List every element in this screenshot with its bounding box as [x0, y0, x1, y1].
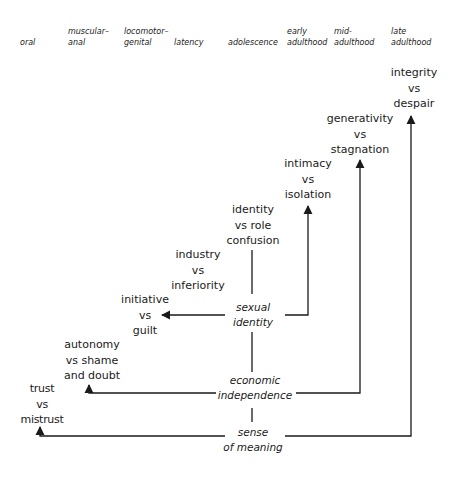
- arrow-to-intimacy: [285, 206, 308, 315]
- crisis-autonomy-vs-shame-and-doubt: autonomy vs shame and doubt: [64, 337, 120, 384]
- hub-economic-independence: economic independence: [218, 373, 293, 402]
- crisis-intimacy-vs-isolation: intimacy vs isolation: [284, 156, 331, 203]
- hub-line: economic: [218, 373, 293, 388]
- crisis-integrity-vs-despair: integrity vs despair: [391, 65, 438, 112]
- crisis-line: mistrust: [21, 412, 64, 428]
- hub-line: sense: [223, 425, 282, 440]
- crisis-line: vs: [391, 81, 438, 97]
- crisis-line: and doubt: [64, 368, 120, 384]
- hub-sexual-identity: sexual identity: [233, 300, 273, 329]
- crisis-line: vs: [171, 263, 224, 279]
- crisis-generativity-vs-stagnation: generativity vs stagnation: [327, 111, 394, 158]
- crisis-line: identity: [226, 202, 279, 218]
- crisis-line: inferiority: [171, 278, 224, 294]
- crisis-line: guilt: [121, 323, 169, 339]
- crisis-line: confusion: [226, 233, 279, 249]
- crisis-line: industry: [171, 247, 224, 263]
- crisis-line: trust: [21, 381, 64, 397]
- crisis-line: autonomy: [64, 337, 120, 353]
- crisis-line: despair: [391, 96, 438, 112]
- crisis-initiative-vs-guilt: initiative vs guilt: [121, 292, 169, 339]
- hub-line: sexual: [233, 300, 273, 315]
- crisis-line: vs: [121, 308, 169, 324]
- crisis-identity-vs-role-confusion: identity vs role confusion: [226, 202, 279, 249]
- crisis-line: stagnation: [327, 142, 394, 158]
- crisis-line: isolation: [284, 187, 331, 203]
- crisis-line: vs: [327, 127, 394, 143]
- crisis-line: vs role: [226, 218, 279, 234]
- crisis-industry-vs-inferiority: industry vs inferiority: [171, 247, 224, 294]
- hub-line: of meaning: [223, 440, 282, 455]
- hub-line: independence: [218, 388, 293, 403]
- crisis-line: initiative: [121, 292, 169, 308]
- connector-lines: [0, 0, 450, 479]
- crisis-trust-vs-mistrust: trust vs mistrust: [21, 381, 64, 428]
- crisis-line: vs: [284, 172, 331, 188]
- hub-line: identity: [233, 315, 273, 330]
- arrow-to-trust: [40, 427, 225, 436]
- arrow-to-autonomy: [89, 385, 216, 393]
- crisis-line: vs: [21, 397, 64, 413]
- crisis-line: integrity: [391, 65, 438, 81]
- crisis-line: intimacy: [284, 156, 331, 172]
- crisis-line: vs shame: [64, 353, 120, 369]
- hub-sense-of-meaning: sense of meaning: [223, 425, 282, 454]
- crisis-line: generativity: [327, 111, 394, 127]
